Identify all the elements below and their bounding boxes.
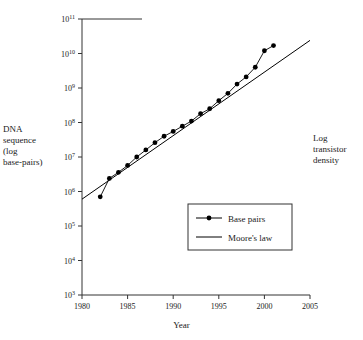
svg-text:Base pairs: Base pairs [228, 214, 266, 224]
svg-text:1990: 1990 [165, 302, 181, 311]
svg-text:1011: 1011 [61, 14, 75, 24]
svg-text:108: 108 [64, 118, 75, 128]
svg-text:107: 107 [64, 152, 75, 162]
moores-law-line [82, 40, 310, 199]
svg-text:109: 109 [64, 83, 75, 93]
svg-text:1980: 1980 [74, 302, 90, 311]
axes-group [82, 19, 310, 295]
chart-figure: DNA sequence (log base-pairs) Log transi… [0, 0, 363, 340]
legend-box: Base pairsMoore's law [188, 204, 292, 250]
svg-text:1995: 1995 [211, 302, 227, 311]
y-tick-labels: 10310410510610710810910101011 [61, 14, 82, 300]
svg-text:2005: 2005 [302, 302, 318, 311]
svg-text:1985: 1985 [120, 302, 136, 311]
svg-text:106: 106 [64, 187, 75, 197]
base-pairs-series [98, 43, 276, 199]
svg-text:Moore's law: Moore's law [228, 233, 273, 243]
svg-text:104: 104 [64, 256, 75, 266]
svg-text:105: 105 [64, 221, 75, 231]
plot-area: 10310410510610710810910101011 1980198519… [0, 0, 363, 340]
x-tick-labels: 198019851990199520002005 [74, 295, 318, 311]
svg-text:1010: 1010 [61, 49, 75, 59]
svg-text:2000: 2000 [256, 302, 272, 311]
svg-text:103: 103 [64, 290, 75, 300]
